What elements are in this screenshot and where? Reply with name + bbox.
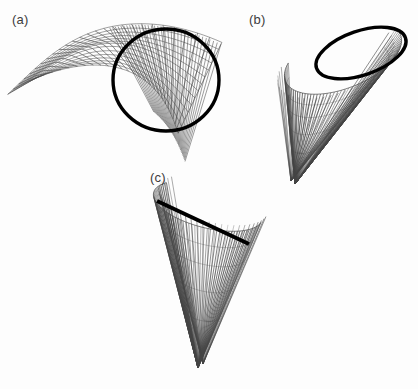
- figure-canvas: (a) (b) (c): [0, 0, 418, 389]
- panel-label-c: (c): [150, 170, 166, 185]
- figure-svg: [0, 0, 418, 389]
- panel-label-a: (a): [12, 12, 29, 27]
- panel-label-b: (b): [249, 12, 266, 27]
- panel-b-mesh: [277, 29, 401, 184]
